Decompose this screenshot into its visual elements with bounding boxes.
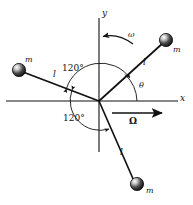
rod-left bbox=[23, 72, 99, 101]
spin-omega-label: ω bbox=[128, 31, 135, 39]
mass-upper-right-label: m bbox=[173, 46, 181, 54]
angle-arc-theta bbox=[125, 75, 137, 102]
mass-lower-sphere bbox=[130, 177, 143, 190]
rod-upper-right-length-label: l bbox=[143, 58, 146, 67]
angle-label-theta: θ bbox=[139, 82, 144, 90]
diagram-canvas bbox=[0, 0, 193, 205]
angle-label-lower-120: 120° bbox=[63, 114, 85, 123]
x-axis-label: x bbox=[180, 94, 185, 103]
precession-omega-label: Ω bbox=[129, 117, 137, 126]
angle-label-upper-120: 120° bbox=[62, 64, 84, 73]
mass-left-label: m bbox=[25, 56, 33, 64]
rod-upper-right bbox=[99, 43, 163, 101]
y-axis-label: y bbox=[102, 9, 107, 18]
rod-lower-length-label: l bbox=[120, 148, 123, 157]
rod-left-length-label: l bbox=[53, 70, 56, 79]
mass-left-sphere bbox=[12, 63, 25, 76]
physics-diagram-figure: y x m m m l l l 120° 120° θ ω Ω bbox=[0, 0, 193, 205]
mass-upper-right-sphere bbox=[159, 33, 172, 46]
mass-lower-label: m bbox=[146, 187, 154, 195]
